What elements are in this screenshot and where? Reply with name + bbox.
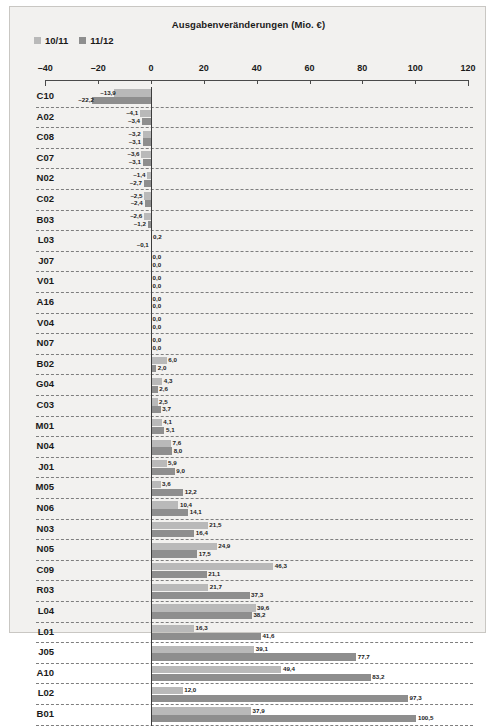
chart-row: C0946,321,1 xyxy=(10,561,487,582)
chart-row: B0137,9100,5 xyxy=(10,705,487,726)
chart-row: M053,612,2 xyxy=(10,478,487,499)
bar-10-11[interactable] xyxy=(151,687,183,694)
bar-11-12[interactable] xyxy=(151,653,356,660)
x-tick-label: 0 xyxy=(148,63,153,73)
bar-10-11[interactable] xyxy=(151,440,171,447)
bar-10-11[interactable] xyxy=(151,604,256,611)
category-label: V04 xyxy=(18,317,54,328)
bar-10-11[interactable] xyxy=(143,131,151,138)
bar-value-label: 14,1 xyxy=(190,508,202,515)
bar-value-label: 21,5 xyxy=(209,521,221,528)
bar-11-12[interactable] xyxy=(151,592,250,599)
bar-10-11[interactable] xyxy=(151,460,167,467)
bar-11-12[interactable] xyxy=(151,489,183,496)
chart-panel: Ausgabenveränderungen (Mio. €) 10/11 11/… xyxy=(9,6,486,633)
legend-swatch-icon-11-12 xyxy=(79,37,86,44)
bar-value-label: 39,6 xyxy=(257,604,269,611)
bar-11-12[interactable] xyxy=(143,138,151,145)
category-label: A02 xyxy=(18,111,54,122)
bar-value-label: 41,6 xyxy=(262,632,274,639)
category-label: C07 xyxy=(18,152,54,163)
x-tick-label: 40 xyxy=(252,63,262,73)
category-label: L03 xyxy=(18,234,54,245)
bar-11-12[interactable] xyxy=(151,571,207,578)
bar-value-label: 97,3 xyxy=(410,694,422,701)
bar-value-label: 37,9 xyxy=(253,707,265,714)
legend-item-11-12[interactable]: 11/12 xyxy=(79,35,113,46)
bar-10-11[interactable] xyxy=(151,707,251,714)
legend-item-10-11[interactable]: 10/11 xyxy=(34,35,68,46)
x-tick-mark xyxy=(204,80,205,84)
bar-11-12[interactable] xyxy=(151,715,416,722)
bar-11-12[interactable] xyxy=(151,695,408,702)
bar-11-12[interactable] xyxy=(151,468,175,475)
bar-10-11[interactable] xyxy=(144,192,151,199)
bar-value-label: 8,0 xyxy=(174,447,183,454)
category-label: L01 xyxy=(18,626,54,637)
bar-10-11[interactable] xyxy=(114,89,151,96)
bar-value-label: 46,3 xyxy=(275,562,287,569)
bar-value-label: 2,0 xyxy=(158,364,167,371)
x-tick-label: –40 xyxy=(38,63,53,73)
category-label: N03 xyxy=(18,523,54,534)
x-tick-mark xyxy=(362,80,363,84)
bar-value-label: 21,7 xyxy=(210,583,222,590)
bar-10-11[interactable] xyxy=(151,481,161,488)
bar-10-11[interactable] xyxy=(151,501,178,508)
bar-value-label: 4,3 xyxy=(164,377,173,384)
bar-11-12[interactable] xyxy=(142,118,151,125)
chart-row: N047,68,0 xyxy=(10,437,487,458)
bar-11-12[interactable] xyxy=(151,447,172,454)
bar-value-label: 0,0 xyxy=(153,344,162,351)
bar-11-12[interactable] xyxy=(151,406,161,413)
bar-value-label: 77,7 xyxy=(358,653,370,660)
chart-row: C07–3,6–3,1 xyxy=(10,149,487,170)
bar-value-label: 4,1 xyxy=(163,418,172,425)
category-label: C10 xyxy=(18,90,54,101)
bar-11-12[interactable] xyxy=(151,427,164,434)
bar-11-12[interactable] xyxy=(151,509,188,516)
chart-row: R0321,737,3 xyxy=(10,581,487,602)
category-label: B02 xyxy=(18,358,54,369)
chart-row: C08–3,2–3,1 xyxy=(10,128,487,149)
bar-11-12[interactable] xyxy=(151,674,371,681)
bar-11-12[interactable] xyxy=(92,97,151,104)
category-label: C03 xyxy=(18,399,54,410)
bar-value-label: 0,0 xyxy=(153,274,162,281)
bar-10-11[interactable] xyxy=(151,666,281,673)
bar-value-label: –1,4 xyxy=(133,171,145,178)
bar-value-label: –3,4 xyxy=(128,117,140,124)
category-label: G04 xyxy=(18,378,54,389)
bar-value-label: 9,0 xyxy=(176,467,185,474)
bar-10-11[interactable] xyxy=(151,584,208,591)
bar-value-label: –2,6 xyxy=(130,212,142,219)
chart-row: B026,02,0 xyxy=(10,355,487,376)
bar-10-11[interactable] xyxy=(151,419,162,426)
bar-11-12[interactable] xyxy=(151,633,261,640)
legend-label-10-11: 10/11 xyxy=(45,35,68,46)
bar-value-label: 6,0 xyxy=(168,356,177,363)
x-tick-label: 60 xyxy=(304,63,314,73)
bar-11-12[interactable] xyxy=(151,550,197,557)
bar-11-12[interactable] xyxy=(151,530,194,537)
bar-10-11[interactable] xyxy=(141,151,151,158)
chart-row: N070,00,0 xyxy=(10,334,487,355)
bar-value-label: –22,2 xyxy=(78,96,93,103)
chart-row: J070,00,0 xyxy=(10,252,487,273)
legend-swatch-icon-10-11 xyxy=(34,37,41,44)
bar-11-12[interactable] xyxy=(144,180,151,187)
bar-11-12[interactable] xyxy=(143,159,151,166)
bar-11-12[interactable] xyxy=(151,612,252,619)
bar-value-label: 0,0 xyxy=(153,323,162,330)
category-label: C09 xyxy=(18,564,54,575)
bar-value-label: 0,2 xyxy=(153,233,162,240)
category-label: J05 xyxy=(18,646,54,657)
bar-10-11[interactable] xyxy=(151,646,254,653)
bar-value-label: –3,1 xyxy=(129,158,141,165)
bar-10-11[interactable] xyxy=(151,625,194,632)
legend-label-11-12: 11/12 xyxy=(90,35,113,46)
chart-row: A02–4,1–3,4 xyxy=(10,108,487,129)
bar-value-label: 0,0 xyxy=(153,253,162,260)
bar-10-11[interactable] xyxy=(140,110,151,117)
